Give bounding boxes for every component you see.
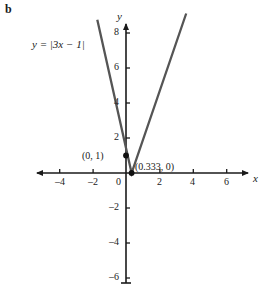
y-tick-label-minus6: –6 (109, 271, 119, 282)
x-tick-label-4: 4 (190, 176, 195, 187)
y-tick-label-4: 4 (114, 96, 119, 107)
x-axis-label: x (253, 172, 258, 184)
y-tick-label-minus4: –4 (109, 236, 119, 247)
curve-path (97, 14, 186, 174)
y-tick-label-minus2: –2 (109, 201, 119, 212)
y-tick-label-2: 2 (114, 131, 119, 142)
y-tick-label-6: 6 (114, 61, 119, 72)
x-tick-label-zero: 0 (116, 176, 121, 187)
curve-absolute-value (97, 14, 186, 174)
figure-panel: b y = |3x − 1| (0, 0, 263, 287)
x-tick-label-2: 2 (157, 176, 162, 187)
graph-canvas (0, 0, 263, 287)
x-tick-label-6: 6 (224, 176, 229, 187)
x-tick-label-minus4: –4 (55, 176, 65, 187)
point-y-intercept-dot (123, 153, 129, 159)
y-axis-label: y (117, 10, 122, 22)
y-tick-label-8: 8 (114, 26, 119, 37)
point-x-intercept-dot (129, 170, 135, 176)
annotation-x-intercept: (0.333, 0) (135, 161, 174, 172)
x-tick-label-minus2: –2 (88, 176, 98, 187)
annotation-y-intercept: (0, 1) (82, 150, 104, 161)
